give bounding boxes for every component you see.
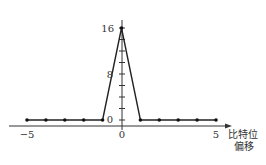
x-axis-arrow-icon bbox=[225, 124, 232, 129]
data-point bbox=[139, 118, 143, 122]
data-point bbox=[82, 118, 86, 122]
x-tick-label-0: 0 bbox=[119, 129, 125, 140]
data-point bbox=[63, 118, 67, 122]
x-tick-label-neg5: −5 bbox=[20, 129, 35, 140]
y-tick-label-0: 0 bbox=[107, 114, 113, 125]
data-point bbox=[25, 118, 29, 122]
x-axis-title-line2: 偏移 bbox=[234, 140, 254, 152]
data-point bbox=[176, 118, 180, 122]
x-tick-label-5: 5 bbox=[213, 129, 219, 140]
data-point bbox=[195, 118, 199, 122]
figure-caption-cropped bbox=[30, 158, 230, 165]
x-axis-title-line1: 比特位 bbox=[228, 128, 258, 140]
data-point bbox=[120, 26, 124, 30]
data-point bbox=[44, 118, 48, 122]
y-tick-label-8: 8 bbox=[107, 69, 113, 80]
data-point bbox=[158, 118, 162, 122]
data-point bbox=[101, 118, 105, 122]
data-point bbox=[214, 118, 218, 122]
correlation-chart: −5 0 5 0 8 16 比特位 偏移 bbox=[0, 0, 266, 165]
y-tick-label-16: 16 bbox=[101, 23, 114, 34]
x-axis bbox=[9, 124, 232, 129]
